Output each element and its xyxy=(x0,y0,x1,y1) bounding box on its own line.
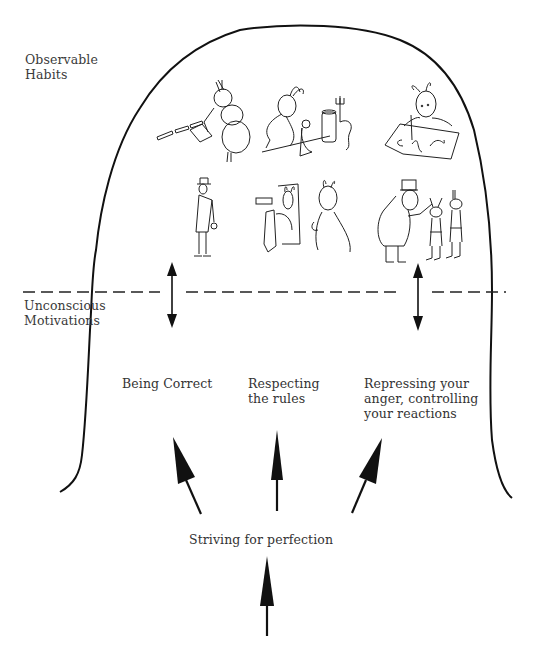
ant-writing-calligraphy-illustration xyxy=(385,83,459,159)
diagram-lines xyxy=(0,0,536,656)
double-arrow-right xyxy=(413,263,423,331)
unconscious-motivations-label: Unconscious Motivations xyxy=(24,298,106,328)
head-outline xyxy=(60,25,512,498)
observable-habits-label: Observable Habits xyxy=(25,52,98,82)
diagram-canvas: Observable Habits Unconscious Motivation… xyxy=(0,0,536,656)
arrow-to-respecting-rules xyxy=(271,430,283,511)
man-standing-illustration xyxy=(194,178,217,256)
arrow-to-repressing-anger xyxy=(352,438,382,513)
ant-filing-papers-illustration xyxy=(157,80,250,162)
arrow-to-striving xyxy=(260,556,274,636)
ant-cleaning-illustration xyxy=(262,87,351,156)
motivation-respecting-rules: Respecting the rules xyxy=(248,376,320,406)
motivation-being-correct: Being Correct xyxy=(122,376,212,391)
motivation-repressing-anger: Repressing your anger, controlling your … xyxy=(364,376,478,421)
ants-at-mirror-illustration xyxy=(256,181,350,252)
officer-inspecting-illustration xyxy=(378,180,462,262)
root-striving-for-perfection: Striving for perfection xyxy=(189,532,333,547)
arrow-to-being-correct xyxy=(173,437,201,514)
double-arrow-left xyxy=(167,262,177,328)
